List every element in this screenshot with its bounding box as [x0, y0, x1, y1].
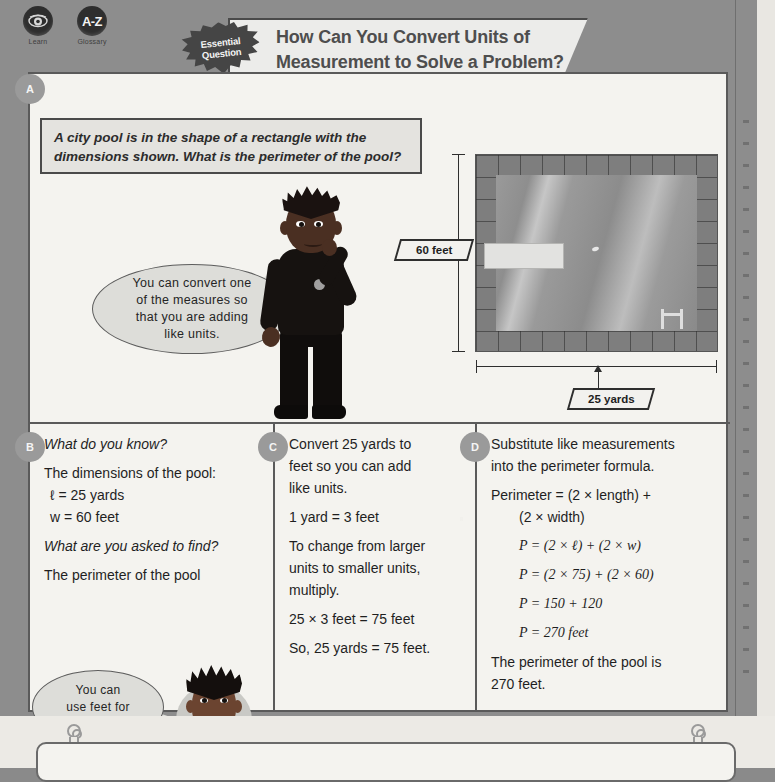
boy-shoe-right: [312, 405, 346, 419]
tool-icon-bar: Learn A‑Z Glossary: [18, 6, 112, 45]
page-right-margin: [757, 0, 775, 768]
bottom-activity-box: [36, 742, 736, 782]
panel-c-line-1: Convert 25 yards to: [289, 434, 461, 454]
height-label-callout: 60 feet: [394, 239, 474, 261]
girl-eye-right: [220, 698, 228, 703]
panel-c-rule-line-1: To change from larger: [289, 536, 461, 556]
panel-c-conclusion: So, 25 yards = 75 feet.: [289, 638, 461, 658]
boy-eye-left: [296, 221, 305, 227]
panel-d-step-4: P = 270 feet: [491, 623, 716, 643]
panel-b-length: ℓ = 25 yards: [44, 485, 259, 505]
page-title-line-1: How Can You Convert Units of: [276, 25, 588, 50]
learn-tool-label: Learn: [18, 38, 58, 45]
width-label-text: 25 yards: [588, 393, 635, 405]
panel-d-step-2: P = (2 × 75) + (2 × 60): [491, 565, 716, 585]
panel-c-rule-line-3: multiply.: [289, 580, 461, 600]
panel-d-answer-line-1: The perimeter of the pool is: [491, 652, 716, 672]
step-badge-a: A: [15, 74, 45, 104]
panel-b-answer: The perimeter of the pool: [44, 565, 259, 585]
panel-c-line-3: like units.: [289, 478, 461, 498]
panel-d: Substitute like measurements into the pe…: [477, 422, 730, 715]
eye-icon: [23, 6, 53, 36]
boy-mouth: [304, 241, 322, 247]
panel-d-formula-line-1: Perimeter = (2 × length) +: [491, 485, 716, 505]
step-badge-b: B: [15, 432, 45, 462]
boy-bubble-line-4: like units.: [164, 326, 219, 343]
boy-bubble-line-3: that you are adding: [136, 309, 249, 326]
width-label-callout: 25 yards: [567, 388, 655, 410]
panel-c: Convert 25 yards to feet so you can add …: [275, 422, 475, 679]
panel-b-dimensions-intro: The dimensions of the pool:: [44, 463, 259, 483]
boy-bubble-line-2: of the measures so: [136, 292, 248, 309]
pool-ladder-icon: [661, 309, 683, 329]
pool-rectangle: [475, 154, 718, 352]
panel-b-question-1: What do you know?: [44, 434, 259, 454]
boy-character-illustration: [252, 179, 372, 424]
step-badge-c: C: [258, 432, 288, 462]
boy-bubble-line-1: You can convert one: [132, 275, 251, 292]
boy-hand-right: [322, 239, 337, 256]
panel-b-width: w = 60 feet: [44, 507, 259, 527]
panel-d-line-2: into the perimeter formula.: [491, 456, 716, 476]
panel-c-rule-line-2: units to smaller units,: [289, 558, 461, 578]
panel-c-line-2: feet so you can add: [289, 456, 461, 476]
a-z-icon: A‑Z: [77, 6, 107, 36]
page-right-band-ticks: [743, 120, 749, 680]
panel-b-question-2: What are you asked to find?: [44, 536, 259, 556]
boy-eye-right: [314, 221, 323, 227]
glossary-tool-label: Glossary: [72, 38, 112, 45]
boy-shoe-left: [274, 405, 308, 419]
water-sparkle: [592, 246, 600, 252]
width-dimension-arrow: [598, 366, 599, 388]
diving-board: [484, 243, 564, 269]
boy-leg-gap: [308, 347, 313, 409]
glossary-tool[interactable]: A‑Z Glossary: [72, 6, 112, 45]
height-label-text: 60 feet: [416, 244, 452, 256]
essential-question-banner: How Can You Convert Units of Measurement…: [228, 18, 588, 78]
panel-d-answer-line-2: 270 feet.: [491, 674, 716, 694]
girl-bubble-line-1: You can: [75, 682, 120, 699]
panel-d-step-3: P = 150 + 120: [491, 594, 716, 614]
learn-tool[interactable]: Learn: [18, 6, 58, 45]
problem-text-line-1: A city pool is in the shape of a rectang…: [54, 128, 408, 147]
panel-d-formula-line-2: (2 × width): [491, 507, 716, 527]
panel-d-line-1: Substitute like measurements: [491, 434, 716, 454]
girl-eye-left: [200, 698, 208, 703]
problem-statement-box: A city pool is in the shape of a rectang…: [40, 118, 422, 174]
panel-d-step-1: P = (2 × ℓ) + (2 × w): [491, 536, 716, 556]
panel-c-conversion-fact: 1 yard = 3 feet: [289, 507, 461, 527]
lesson-card: A B C D A city pool is in the shape of a…: [28, 72, 728, 712]
problem-text-line-2: dimensions shown. What is the perimeter …: [54, 147, 408, 166]
step-badge-d: D: [460, 432, 490, 462]
girl-bubble-line-2: use feet for: [66, 699, 130, 716]
pool-diagram: 60 feet 25 yards: [430, 154, 720, 414]
panel-c-calculation: 25 × 3 feet = 75 feet: [289, 609, 461, 629]
panel-b: What do you know? The dimensions of the …: [30, 422, 273, 606]
